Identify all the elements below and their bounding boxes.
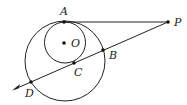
label-D: D — [24, 87, 34, 100]
label-A: A — [59, 5, 68, 18]
label-C: C — [74, 66, 83, 79]
label-B: B — [108, 49, 117, 62]
arrowhead-icon — [12, 84, 20, 91]
geometry-diagram: A P O B C D — [0, 0, 187, 105]
label-O: O — [71, 37, 80, 50]
point-C — [72, 61, 76, 65]
point-B — [101, 48, 105, 52]
point-O — [62, 41, 66, 45]
point-P — [166, 20, 170, 24]
point-D — [29, 80, 33, 84]
point-A — [62, 20, 66, 24]
label-P: P — [173, 16, 182, 29]
large-circle — [25, 21, 105, 101]
